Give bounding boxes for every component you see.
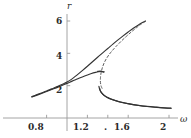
y-tick-label-6: 6 [56, 17, 62, 26]
frequency-response-chart: 6 4 2 0.8 1.2 . 1.6 2 r ω [0, 0, 191, 138]
axis-lines [3, 14, 178, 131]
curve-lower-stable-branch [32, 72, 104, 97]
x-axis-title: ω [180, 115, 187, 124]
y-axis-title: r [67, 2, 71, 11]
x-tick-label-1-4: . [104, 123, 107, 132]
x-tick-label-1-6: 1.6 [114, 123, 130, 132]
x-tick-label-1-2: 1.2 [73, 123, 89, 132]
x-tick-label-2: 2 [160, 123, 166, 132]
curve-upper-stable-branch [32, 21, 146, 97]
y-axis-ticks [67, 21, 70, 86]
x-axis-ticks [47, 115, 169, 118]
y-tick-label-4: 4 [56, 52, 62, 61]
plot-canvas [0, 0, 191, 138]
y-tick-label-2: 2 [56, 86, 62, 95]
data-series-group [32, 21, 171, 108]
curve-lower-fold-inner-branch [99, 86, 171, 108]
x-tick-label-0-8: 0.8 [28, 123, 44, 132]
curve-unstable-dashed-branch [100, 21, 145, 88]
